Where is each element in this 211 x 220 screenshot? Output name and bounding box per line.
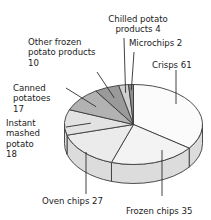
label-oven-chips: Oven chips 27 (42, 196, 118, 206)
label-microchips: Microchips 2 (129, 38, 209, 48)
label-chilled-potato-products: Chilled potato products 4 (97, 14, 179, 35)
pie-chart-figure: Chilled potato products 4 Microchips 2 C… (0, 0, 211, 220)
label-frozen-chips: Frozen chips 35 (126, 206, 210, 216)
pie-slices (64, 85, 202, 165)
label-canned-potatoes: Canned potatoes 17 (13, 83, 73, 114)
label-crisps: Crisps 61 (152, 60, 210, 70)
label-other-frozen-potato-products: Other frozen potato products 10 (28, 37, 114, 68)
label-instant-mashed-potato: Instant mashed potato 18 (6, 118, 68, 160)
